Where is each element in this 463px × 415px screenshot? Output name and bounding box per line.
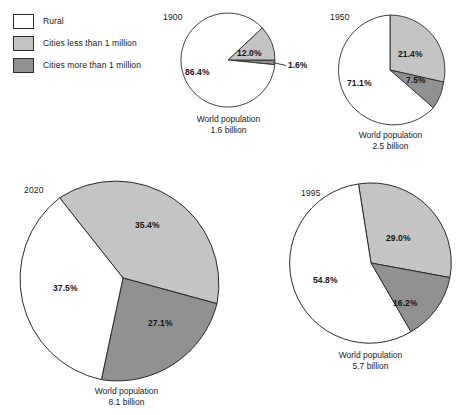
legend-item-cities-more-than-1-million: Cities more than 1 million bbox=[13, 57, 163, 73]
pie-caption-line1-2020: World population bbox=[74, 386, 179, 397]
legend-item-cities-less-than-1-million: Cities less than 1 million bbox=[13, 35, 163, 51]
pie-year-label-1950: 1950 bbox=[330, 12, 350, 22]
pie-svg-1900 bbox=[163, 10, 299, 114]
pie-caption-2020: World population 8.1 billion bbox=[74, 386, 179, 408]
legend-label-cities-more-than-1-million: Cities more than 1 million bbox=[43, 60, 141, 70]
pie-year-label-2020: 2020 bbox=[24, 185, 44, 195]
pie-caption-line1-1950: World population bbox=[338, 130, 443, 141]
pie-year-label-1995: 1995 bbox=[301, 188, 321, 198]
pie-value-2020-rural: 37.5% bbox=[53, 283, 78, 293]
pie-caption-line2-1900: 1.6 billion bbox=[181, 125, 276, 136]
pie-value-1995-cities-less-than-1-million: 29.0% bbox=[386, 233, 411, 243]
pie-svg-1995 bbox=[288, 175, 458, 353]
pie-caption-1995: World population 5.7 billion bbox=[318, 350, 423, 372]
legend-swatch-rural bbox=[13, 14, 34, 29]
pie-value-1950-cities-more-than-1-million: 7.5% bbox=[406, 75, 426, 85]
legend-item-rural: Rural bbox=[13, 13, 163, 29]
pie-caption-line2-1995: 5.7 billion bbox=[318, 361, 423, 372]
pie-caption-line2-2020: 8.1 billion bbox=[74, 397, 179, 408]
pie-svg-2020 bbox=[8, 168, 238, 388]
legend-label-cities-less-than-1-million: Cities less than 1 million bbox=[43, 38, 137, 48]
pie-chart-1950: 1950 21.4% 7.5% 71.1% World population 2… bbox=[330, 10, 450, 128]
pie-chart-2020: 2020 35.4% 27.1% 37.5% World population … bbox=[8, 168, 238, 388]
legend-swatch-cities-less-than-1-million bbox=[13, 36, 34, 51]
pie-chart-1900: 1900 12.0% 86.4% 1.6% World population 1… bbox=[163, 10, 299, 114]
pie-caption-1950: World population 2.5 billion bbox=[338, 130, 443, 152]
legend-label-rural: Rural bbox=[43, 16, 64, 26]
pie-caption-line1-1995: World population bbox=[318, 350, 423, 361]
legend-swatch-cities-more-than-1-million bbox=[13, 58, 34, 73]
pie-value-1950-rural: 71.1% bbox=[347, 78, 372, 88]
pie-value-1900-cities-more-than-1-million: 1.6% bbox=[288, 60, 307, 70]
pie-caption-line2-1950: 2.5 billion bbox=[338, 141, 443, 152]
pie-value-2020-cities-more-than-1-million: 27.1% bbox=[148, 318, 173, 328]
pie-value-1995-rural: 54.8% bbox=[313, 275, 338, 285]
pie-value-1995-cities-more-than-1-million: 16.2% bbox=[393, 298, 418, 308]
pie-chart-1995: 1995 29.0% 16.2% 54.8% World population … bbox=[288, 175, 458, 353]
pie-value-1900-rural: 86.4% bbox=[185, 67, 210, 77]
pie-caption-1900: World population 1.6 billion bbox=[181, 114, 276, 136]
pie-caption-line1-1900: World population bbox=[181, 114, 276, 125]
pie-svg-1950 bbox=[330, 10, 450, 128]
pie-year-label-1900: 1900 bbox=[163, 12, 183, 22]
pie-value-2020-cities-less-than-1-million: 35.4% bbox=[135, 220, 160, 230]
pie-value-1900-cities-less-than-1-million: 12.0% bbox=[237, 48, 262, 58]
legend: Rural Cities less than 1 million Cities … bbox=[13, 13, 163, 79]
pie-value-1950-cities-less-than-1-million: 21.4% bbox=[398, 49, 423, 59]
